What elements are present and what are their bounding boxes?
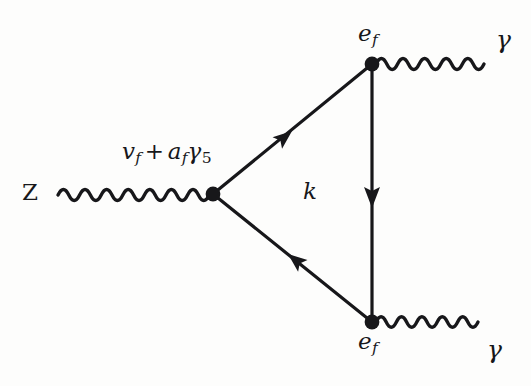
fermion-bottom-symbol: e: [358, 328, 372, 354]
feynman-diagram-figure: Z vf+afγ5 k ef ef γ γ: [0, 0, 531, 386]
diagram-canvas: [0, 0, 531, 386]
label-vertex-coupling: vf+afγ5: [122, 140, 212, 166]
coupling-v-symbol: v: [122, 138, 135, 164]
coupling-a-symbol: a: [168, 138, 182, 164]
label-photon-top: γ: [496, 27, 511, 52]
vertex-dot-z-coupling: [206, 187, 221, 202]
label-fermion-top: ef: [358, 22, 378, 48]
label-loop-momentum-k: k: [303, 180, 317, 203]
photon-wavy-line-top: [376, 59, 484, 70]
vertex-dot-top-photon: [365, 57, 380, 72]
photon-wavy-line-bottom: [376, 317, 478, 328]
fermion-top-subscript: f: [372, 30, 378, 49]
label-incoming-z-boson: Z: [22, 181, 38, 204]
coupling-gamma-symbol: γ: [188, 138, 202, 164]
fermion-top-symbol: e: [358, 20, 372, 46]
z-boson-wavy-line: [58, 190, 209, 201]
fermion-line-upper: [213, 64, 372, 194]
coupling-operator: +: [145, 138, 164, 164]
label-fermion-bottom: ef: [358, 330, 378, 356]
fermion-bottom-subscript: f: [372, 338, 378, 357]
coupling-v-subscript: f: [135, 148, 141, 167]
label-photon-bottom: γ: [487, 337, 502, 362]
coupling-gamma-subscript: 5: [202, 148, 212, 167]
